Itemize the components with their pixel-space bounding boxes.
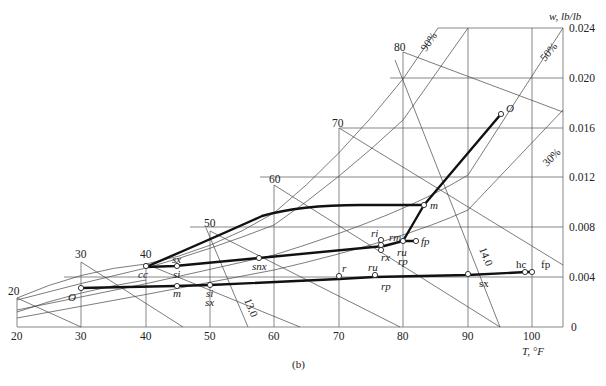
svg-text:20: 20 xyxy=(8,285,20,297)
svg-text:20: 20 xyxy=(11,330,23,342)
svg-text:80: 80 xyxy=(394,41,406,53)
label-sx-winter: sx xyxy=(205,296,214,308)
label-m-winter: m xyxy=(173,287,181,299)
svg-text:30: 30 xyxy=(75,330,87,342)
svg-text:0.016: 0.016 xyxy=(569,122,595,134)
label-hc: hc xyxy=(516,258,527,270)
label-sx-winter-heated: sx xyxy=(479,277,489,289)
label-ri: ri xyxy=(371,227,378,239)
svg-text:90%: 90% xyxy=(418,30,439,53)
svg-text:14.0: 14.0 xyxy=(477,245,496,268)
x-axis-label: T, °F xyxy=(522,345,544,357)
label-sx-summer: sx xyxy=(172,253,181,265)
label-cc: cc xyxy=(138,268,148,280)
svg-text:0: 0 xyxy=(571,321,577,333)
state-points xyxy=(78,111,534,290)
label-fp-summer: fp xyxy=(421,235,430,247)
label-rm: rm xyxy=(389,231,401,243)
label-snx: snx xyxy=(252,260,267,272)
label-m-summer: m xyxy=(430,199,438,211)
x-axis-ticks: 20 30 40 50 60 70 80 90 100 xyxy=(11,330,541,342)
svg-text:70: 70 xyxy=(333,330,345,342)
svg-text:70: 70 xyxy=(332,117,344,129)
svg-text:90: 90 xyxy=(462,330,474,342)
label-rp-summer: rp xyxy=(398,255,408,267)
specific-volume-lines xyxy=(206,60,500,327)
label-rx: rx xyxy=(381,251,390,263)
label-r: r xyxy=(342,262,347,274)
label-ru-winter: ru xyxy=(368,261,378,273)
svg-text:30%: 30% xyxy=(540,146,563,169)
svg-text:30: 30 xyxy=(75,248,87,260)
svg-text:0.004: 0.004 xyxy=(569,271,595,283)
svg-text:40: 40 xyxy=(140,330,152,342)
svg-text:60: 60 xyxy=(269,173,281,185)
svg-text:80: 80 xyxy=(397,330,409,342)
label-rp-winter: rp xyxy=(381,280,391,292)
svg-text:0.024: 0.024 xyxy=(569,22,595,34)
relative-humidity-labels: 90% 50% 30% xyxy=(418,30,563,169)
y-axis-label: w, lb/lb xyxy=(549,10,582,22)
svg-text:100: 100 xyxy=(523,330,541,342)
svg-text:50: 50 xyxy=(204,217,216,229)
svg-text:0.012: 0.012 xyxy=(569,171,595,183)
y-axis-ticks: 0 0.004 0.008 0.012 0.016 0.020 0.024 xyxy=(569,22,595,333)
svg-text:50%: 50% xyxy=(537,40,559,63)
label-si-summer: si xyxy=(173,268,180,280)
label-O-summer: O xyxy=(506,102,514,114)
svg-text:60: 60 xyxy=(268,330,280,342)
saturation-temperature-labels: 20 30 40 50 60 70 80 xyxy=(8,41,406,297)
label-fp-winter: fp xyxy=(541,258,551,270)
label-O-winter: O xyxy=(68,291,76,303)
svg-text:40: 40 xyxy=(140,248,152,260)
svg-text:0.008: 0.008 xyxy=(569,221,595,233)
svg-text:0.020: 0.020 xyxy=(569,72,595,84)
svg-text:13.0: 13.0 xyxy=(242,296,261,319)
psychrometric-chart: O m fp ru rp ri rm rx snx sx cc si O m s… xyxy=(0,0,606,386)
svg-text:50: 50 xyxy=(204,330,216,342)
figure-caption: (b) xyxy=(292,358,305,371)
